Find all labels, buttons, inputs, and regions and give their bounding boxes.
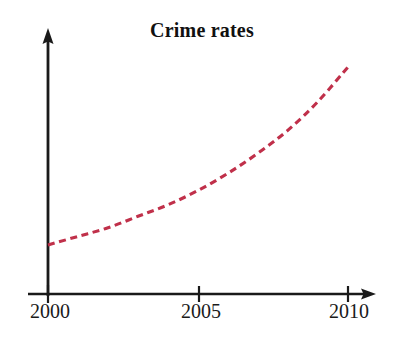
crime-rates-chart: Crime rates 2000 2005 2010 — [0, 0, 405, 337]
x-tick-label-2000: 2000 — [5, 300, 95, 323]
chart-plot-area — [0, 0, 405, 337]
x-tick-label-2005: 2005 — [156, 300, 246, 323]
x-tick-label-2010: 2010 — [304, 300, 394, 323]
crime-rates-series-line — [48, 67, 348, 245]
